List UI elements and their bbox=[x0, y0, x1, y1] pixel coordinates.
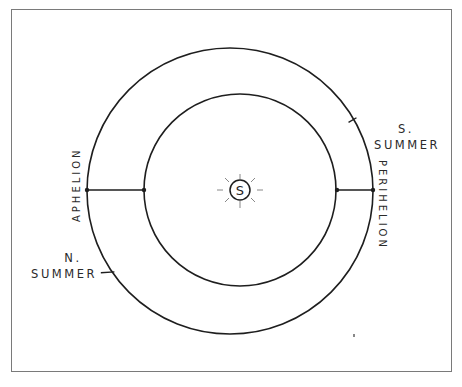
inner-right-point bbox=[335, 188, 339, 192]
orbit-diagram: S APHELION PERIHELION S. SUMMER N. SUMME… bbox=[0, 0, 462, 387]
s-summer-label-line1: S. bbox=[398, 122, 414, 136]
n-summer-label-line1: N. bbox=[64, 251, 81, 265]
aphelion-point bbox=[85, 188, 89, 192]
sun-label: S bbox=[236, 183, 244, 198]
perihelion-point bbox=[371, 188, 375, 192]
inner-left-point bbox=[142, 188, 146, 192]
n-summer-label-line2: SUMMER bbox=[31, 267, 97, 281]
aphelion-label: APHELION bbox=[71, 147, 82, 222]
speck bbox=[353, 334, 355, 337]
sun-icon: S bbox=[217, 174, 263, 208]
s-summer-label-line2: SUMMER bbox=[374, 138, 440, 152]
n-summer-tick bbox=[101, 266, 115, 279]
perihelion-label: PERIHELION bbox=[377, 160, 388, 250]
